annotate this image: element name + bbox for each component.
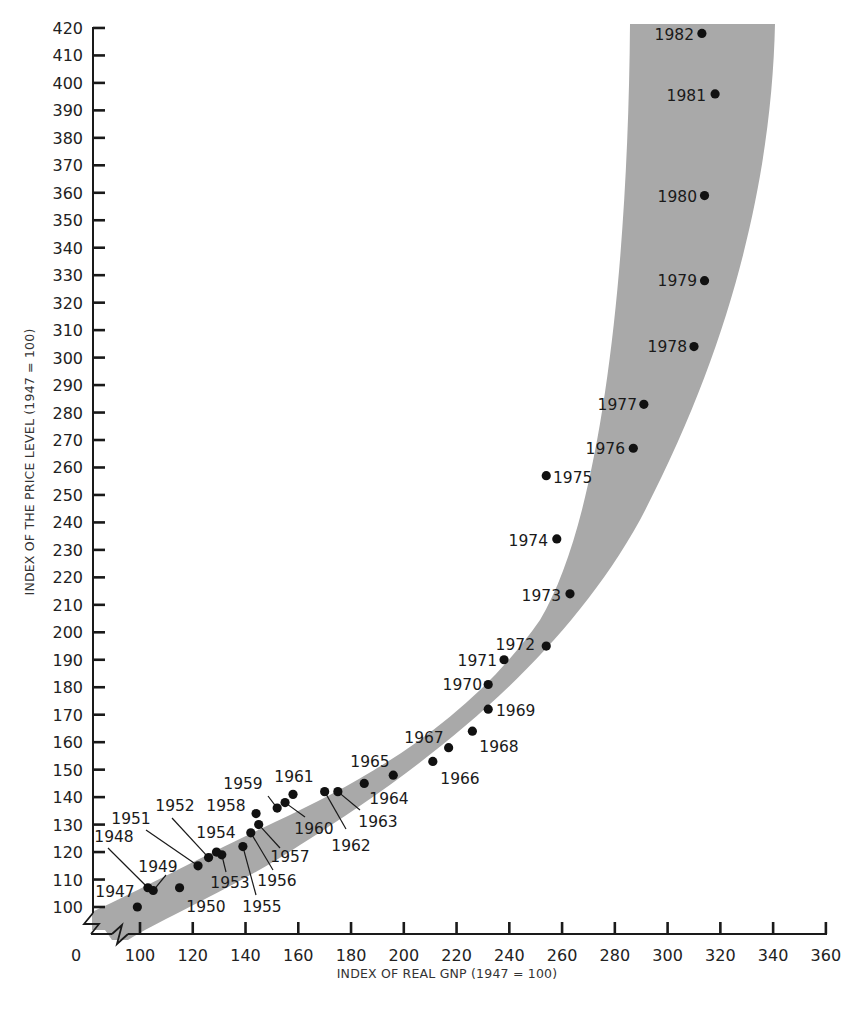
y-tick-label: 100 [52,898,83,917]
x-tick-label: 200 [389,946,420,965]
data-point-1962 [320,787,329,796]
year-label-1977: 1977 [598,396,637,414]
y-tick-label: 400 [52,74,83,93]
y-tick-label: 340 [52,239,83,258]
year-label-1963: 1963 [358,813,397,831]
data-point-1974 [552,534,561,543]
data-point-1976 [629,444,638,453]
x-axis-title: INDEX OF REAL GNP (1947 = 100) [337,966,558,981]
data-point-1956 [246,828,255,837]
y-tick-label: 130 [52,816,83,835]
y-tick-label: 210 [52,596,83,615]
year-label-1969: 1969 [496,702,535,720]
y-tick-label: 200 [52,623,83,642]
data-point-1978 [689,342,698,351]
data-point-1982 [697,29,706,38]
x-tick-label: 340 [758,946,789,965]
year-label-1978: 1978 [648,338,687,356]
year-label-1975: 1975 [553,469,592,487]
year-label-1952: 1952 [155,797,194,815]
data-point-1980 [700,191,709,200]
data-point-1959 [273,804,282,813]
data-point-1957 [254,820,263,829]
data-point-1970 [484,680,493,689]
year-label-1953: 1953 [210,874,249,892]
y-tick-label: 300 [52,349,83,368]
data-point-1949 [149,886,158,895]
data-point-1954 [212,847,221,856]
data-point-1963 [333,787,342,796]
year-label-1947: 1947 [95,883,134,901]
x-tick-label: 220 [441,946,472,965]
data-point-1966 [428,757,437,766]
year-label-1957: 1957 [270,848,309,866]
data-point-1973 [565,589,574,598]
y-tick-label: 310 [52,321,83,340]
year-label-1972: 1972 [496,636,535,654]
y-tick-label: 120 [52,843,83,862]
data-point-1960 [280,798,289,807]
data-point-1971 [499,655,508,664]
data-point-1947 [133,902,142,911]
x-axis-zero-label: 0 [71,946,81,965]
y-tick-label: 330 [52,266,83,285]
year-label-1971: 1971 [458,652,497,670]
data-point-1961 [288,790,297,799]
year-label-1955: 1955 [242,898,281,916]
y-tick-label: 260 [52,458,83,477]
y-tick-label: 160 [52,733,83,752]
year-label-1959: 1959 [223,775,262,793]
y-tick-label: 180 [52,678,83,697]
x-tick-label: 360 [811,946,842,965]
year-label-1964: 1964 [369,790,408,808]
y-tick-label: 280 [52,404,83,423]
y-tick-label: 240 [52,513,83,532]
year-label-1982: 1982 [655,26,694,44]
data-point-1955 [238,842,247,851]
data-point-1967 [444,743,453,752]
year-label-1962: 1962 [331,837,370,855]
y-tick-label: 150 [52,761,83,780]
year-label-1966: 1966 [440,770,479,788]
year-label-1961: 1961 [274,768,313,786]
x-tick-label: 160 [283,946,314,965]
x-tick-label: 240 [494,946,525,965]
y-tick-label: 190 [52,651,83,670]
data-point-1975 [542,471,551,480]
year-label-1965: 1965 [350,753,389,771]
y-tick-label: 140 [52,788,83,807]
y-axis-ticks: 1001101201301401501601701801902002102202… [52,19,105,917]
data-point-1964 [360,779,369,788]
x-tick-label: 300 [652,946,683,965]
data-point-1968 [468,727,477,736]
year-label-1958: 1958 [206,797,245,815]
year-label-1967: 1967 [404,729,443,747]
y-tick-label: 390 [52,101,83,120]
year-label-1949: 1949 [138,858,177,876]
x-tick-label: 320 [705,946,736,965]
y-tick-label: 290 [52,376,83,395]
year-label-1976: 1976 [586,440,625,458]
data-point-1950 [175,883,184,892]
x-axis-ticks: 1001201401601802002202402602803003203403… [125,922,841,965]
data-point-1951 [193,861,202,870]
y-tick-label: 350 [52,211,83,230]
data-point-1952 [204,853,213,862]
data-point-1965 [389,771,398,780]
y-tick-label: 360 [52,184,83,203]
year-label-1951: 1951 [111,810,150,828]
y-tick-label: 170 [52,706,83,725]
year-label-1970: 1970 [443,676,482,694]
x-tick-label: 260 [547,946,578,965]
data-point-1977 [639,400,648,409]
x-tick-label: 180 [336,946,367,965]
year-label-1981: 1981 [667,87,706,105]
y-tick-label: 410 [52,46,83,65]
chart-canvas: 1001101201301401501601701801902002102202… [0,0,854,1009]
y-tick-label: 380 [52,129,83,148]
data-point-1958 [251,809,260,818]
y-tick-label: 250 [52,486,83,505]
y-axis-title: INDEX OF THE PRICE LEVEL (1947 = 100) [22,328,37,595]
data-point-1972 [542,641,551,650]
y-tick-label: 230 [52,541,83,560]
